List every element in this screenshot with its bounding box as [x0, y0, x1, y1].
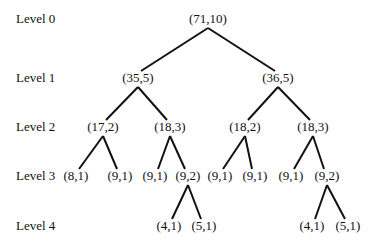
tree-edge	[188, 185, 201, 219]
level-label-3: Level 3	[16, 168, 55, 184]
tree-edge	[158, 136, 170, 169]
tree-edge	[294, 136, 313, 169]
tree-diagram: Level 0 Level 1 Level 2 Level 3 Level 4 …	[0, 0, 371, 249]
tree-node: (17,2)	[87, 119, 118, 135]
tree-node: (18,2)	[229, 119, 260, 135]
tree-node: (36,5)	[262, 70, 293, 86]
tree-node-root: (71,10)	[189, 11, 227, 27]
tree-node: (18,3)	[154, 119, 185, 135]
tree-node: (35,5)	[122, 70, 153, 86]
tree-edge	[223, 136, 245, 169]
tree-edge	[172, 185, 188, 219]
tree-node: (4,1)	[157, 218, 182, 234]
tree-edge	[327, 185, 345, 219]
tree-node: (4,1)	[300, 218, 325, 234]
tree-edge	[278, 87, 310, 120]
tree-node: (5,1)	[336, 218, 361, 234]
tree-edge	[208, 28, 275, 71]
tree-node: (9,1)	[208, 168, 233, 184]
tree-node: (9,2)	[176, 168, 201, 184]
level-label-1: Level 1	[16, 70, 55, 86]
tree-edge	[106, 87, 138, 120]
tree-edge	[248, 87, 278, 120]
tree-edge	[79, 136, 103, 169]
tree-edge	[170, 136, 185, 169]
tree-edge	[141, 28, 208, 71]
tree-edge	[103, 136, 117, 169]
tree-node: (9,2)	[315, 168, 340, 184]
tree-node: (5,1)	[192, 218, 217, 234]
level-label-4: Level 4	[16, 218, 55, 234]
tree-node: (8,1)	[64, 168, 89, 184]
level-label-2: Level 2	[16, 119, 55, 135]
tree-edge	[315, 185, 327, 219]
tree-edge	[313, 136, 324, 169]
level-label-0: Level 0	[16, 11, 55, 27]
tree-edge	[245, 136, 252, 169]
tree-node: (9,1)	[279, 168, 304, 184]
tree-node: (9,1)	[243, 168, 268, 184]
tree-edge	[138, 87, 167, 120]
tree-node: (9,1)	[108, 168, 133, 184]
tree-node: (18,3)	[297, 119, 328, 135]
tree-node: (9,1)	[143, 168, 168, 184]
